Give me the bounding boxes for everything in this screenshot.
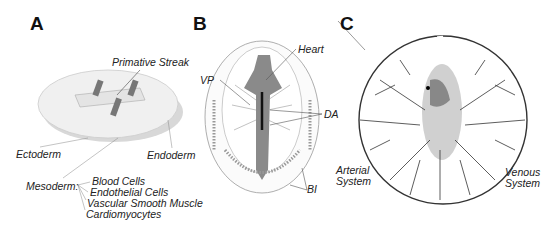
label-heart: Heart <box>298 43 324 55</box>
panel-label-a: A <box>30 13 44 35</box>
diagram-canvas <box>0 0 548 233</box>
label-vp: VP <box>200 74 214 86</box>
label-cardiomyocytes: Cardiomyocytes <box>86 208 161 220</box>
label-endoderm: Endoderm <box>147 149 195 161</box>
embryo-vasculature-illustration <box>205 41 322 193</box>
panel-label-c: C <box>340 13 354 35</box>
label-arterial-system: System <box>336 175 371 187</box>
label-ectoderm: Ectoderm <box>16 148 61 160</box>
label-mesoderm: Mesoderm: <box>26 180 79 192</box>
label-da: DA <box>324 108 339 120</box>
label-primitive-streak: Primative Streak <box>112 56 189 68</box>
label-bi: BI <box>307 183 317 195</box>
label-venous-system: System <box>505 177 540 189</box>
panel-label-b: B <box>193 13 207 35</box>
